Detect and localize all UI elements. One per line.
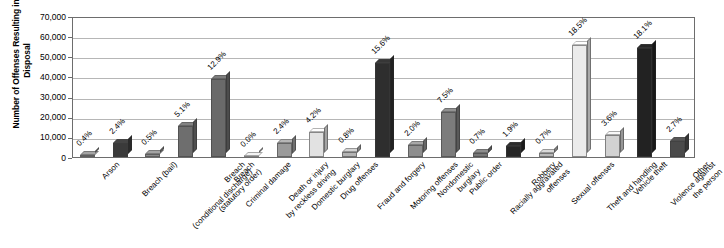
bar-front-face	[637, 48, 652, 157]
bar-value-label: 2.4%	[271, 116, 290, 135]
bar-value-label: 4.2%	[304, 105, 323, 124]
bar-vehicle-theft[interactable]: 3.6%	[605, 18, 620, 157]
y-axis-tick-10000: 10,000	[4, 133, 66, 142]
bar-robbery[interactable]: 1.9%	[506, 18, 521, 157]
bar-front-face	[539, 153, 554, 157]
bar-value-label: 0.5%	[140, 128, 159, 147]
bar-value-label: 0.4%	[75, 128, 94, 147]
bar-criminal-damage[interactable]: 12.9%	[211, 18, 226, 157]
bar-value-label: 3.6%	[599, 109, 618, 128]
x-axis-label: Breach (bail)	[140, 160, 179, 199]
bar-domestic-burglary[interactable]: 2.4%	[277, 18, 292, 157]
y-axis-tick-60000: 60,000	[4, 33, 66, 42]
bar-value-label: 0.7%	[534, 127, 553, 146]
bar-side-face	[652, 40, 656, 153]
x-axis-label: Arson	[101, 160, 123, 182]
y-axis-tick-40000: 40,000	[4, 73, 66, 82]
y-axis-tick-20000: 20,000	[4, 113, 66, 122]
bar-front-face	[441, 112, 456, 157]
bar-side-face	[521, 138, 525, 153]
bar-motoring-offenses[interactable]: 15.6%	[375, 18, 390, 157]
bar-side-face	[357, 144, 361, 153]
bar-racially-aggravated-offenses[interactable]: 0.7%	[473, 18, 488, 157]
bar-front-face	[473, 153, 488, 157]
bar-value-label: 5.1%	[173, 100, 192, 119]
y-axis-tick-mark	[68, 158, 72, 159]
bar-value-label: 0.7%	[468, 127, 487, 146]
bar-side-face	[128, 135, 132, 154]
bar-drug-offenses[interactable]: 4.2%	[309, 18, 324, 157]
bar-front-face	[375, 63, 390, 157]
bar-side-face	[587, 37, 591, 153]
bar-public-order[interactable]: 7.5%	[441, 18, 456, 157]
bar-value-label: 2.7%	[665, 114, 684, 133]
bar-front-face	[408, 145, 423, 157]
y-axis-tick-70000: 70,000	[4, 13, 66, 22]
bar-series: 0.4%2.4%0.5%5.1%12.9%0.0%2.4%4.2%0.8%15.…	[73, 18, 694, 157]
bar-front-face	[605, 135, 620, 157]
bar-front-face	[670, 141, 685, 157]
bar-breach-bail[interactable]: 2.4%	[113, 18, 128, 157]
bar-side-face	[390, 55, 394, 153]
bar-value-label: 2.4%	[107, 116, 126, 135]
bar-value-label: 0.8%	[337, 126, 356, 145]
bar-fraud-and-forgery[interactable]: 0.8%	[342, 18, 357, 157]
bar-value-label: 7.5%	[435, 85, 454, 104]
bar-top-face	[244, 152, 263, 156]
bar-violence-against-the-person[interactable]: 18.1%	[637, 18, 652, 157]
y-axis-tick-30000: 30,000	[4, 93, 66, 102]
bar-breach-conditional-discharge[interactable]: 0.5%	[145, 18, 160, 157]
bar-front-face	[506, 146, 521, 157]
bar-side-face	[554, 145, 558, 153]
bar-front-face	[309, 132, 324, 157]
y-axis-tick-0: 0	[4, 154, 66, 163]
bar-death-or-injury-by-reckless-driving[interactable]: 0.0%	[244, 18, 259, 157]
bar-value-label: 18.1%	[632, 18, 654, 40]
bar-side-face	[456, 104, 460, 153]
bar-value-label: 12.9%	[206, 50, 228, 72]
bar-front-face	[178, 126, 193, 157]
bar-arson[interactable]: 0.4%	[80, 18, 95, 157]
bar-side-face	[226, 71, 230, 153]
bar-theft-and-handling[interactable]: 18.5%	[572, 18, 587, 157]
x-axis-label: Sexual offenses	[570, 160, 617, 207]
bar-sexual-offenses[interactable]: 0.7%	[539, 18, 554, 157]
x-axis-category-labels: ArsonBreach (bail)Breach (conditional di…	[72, 160, 695, 248]
bar-value-label: 18.5%	[566, 16, 588, 38]
bar-side-face	[292, 135, 296, 154]
bar-value-label: 0.0%	[238, 130, 257, 149]
y-axis-tick-50000: 50,000	[4, 53, 66, 62]
plot-area: 0.4%2.4%0.5%5.1%12.9%0.0%2.4%4.2%0.8%15.…	[72, 17, 695, 158]
bar-front-face	[145, 154, 160, 157]
bar-side-face	[324, 124, 328, 153]
bar-front-face	[572, 45, 587, 157]
bar-side-face	[685, 133, 689, 153]
bar-other[interactable]: 2.7%	[670, 18, 685, 157]
bar-value-label: 2.0%	[402, 119, 421, 138]
bar-value-label: 15.6%	[370, 33, 392, 55]
bar-side-face	[488, 145, 492, 153]
bar-breach-statutory-order[interactable]: 5.1%	[178, 18, 193, 157]
bar-side-face	[193, 118, 197, 153]
bar-nondomestic-burglary[interactable]: 2.0%	[408, 18, 423, 157]
bar-value-label: 1.9%	[501, 119, 520, 138]
bar-front-face	[113, 143, 128, 158]
bar-side-face	[620, 127, 624, 153]
bar-side-face	[423, 137, 427, 153]
bar-front-face	[342, 152, 357, 157]
bar-front-face	[211, 79, 226, 157]
bar-front-face	[277, 143, 292, 158]
